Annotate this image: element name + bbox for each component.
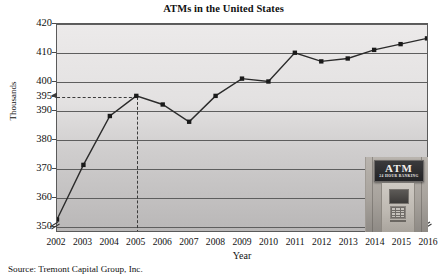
reference-arrow-icon — [51, 92, 57, 99]
chart-container: ATMs in the United States Thousands 3503… — [0, 0, 447, 279]
data-point-2012 — [319, 59, 323, 63]
atm-card-slot-icon — [390, 220, 406, 222]
data-point-2014 — [372, 48, 376, 52]
atm-sign-main-text: ATM — [375, 162, 423, 174]
y-tick-label-380: 380 — [0, 134, 52, 145]
data-point-2015 — [398, 42, 402, 46]
axis-break-left-icon — [49, 214, 63, 230]
y-tick-label-390: 390 — [0, 105, 52, 116]
y-tick-label-400: 400 — [0, 76, 52, 87]
data-point-2011 — [293, 51, 297, 55]
atm-keypad-icon — [390, 206, 406, 219]
chart-title: ATMs in the United States — [0, 3, 447, 14]
data-point-2008 — [213, 94, 217, 98]
data-point-2007 — [187, 120, 191, 124]
atm-screen-icon — [389, 189, 409, 204]
y-tick-label-420: 420 — [0, 18, 52, 29]
data-point-2016 — [425, 36, 427, 40]
y-tick-label-395: 395 — [0, 91, 52, 102]
data-point-2006 — [161, 102, 165, 106]
y-tick-label-370: 370 — [0, 163, 52, 174]
atm-wall-seam — [372, 157, 373, 232]
y-tick-label-350: 350 — [0, 221, 52, 232]
data-point-2013 — [346, 56, 350, 60]
x-axis-title: Year — [56, 250, 428, 261]
data-point-2010 — [266, 79, 270, 83]
y-tick-label-360: 360 — [0, 192, 52, 203]
data-point-2004 — [108, 114, 112, 118]
data-point-2003 — [81, 163, 85, 167]
atm-sign: ATM 24 HOUR BANKING — [374, 160, 424, 182]
atm-sign-sub-text: 24 HOUR BANKING — [375, 174, 423, 179]
atm-machine-body — [381, 183, 415, 232]
data-point-2005 — [134, 94, 138, 98]
atm-photo-inset: ATM 24 HOUR BANKING — [365, 157, 428, 232]
source-note: Source: Tremont Capital Group, Inc. — [8, 264, 143, 274]
x-tick-label-2016: 2016 — [411, 236, 445, 247]
data-point-2009 — [240, 76, 244, 80]
y-tick-label-410: 410 — [0, 47, 52, 58]
